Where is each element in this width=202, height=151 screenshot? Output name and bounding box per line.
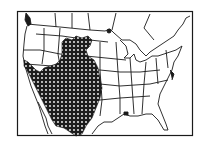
map-svg (0, 0, 202, 151)
range-map (0, 0, 202, 151)
